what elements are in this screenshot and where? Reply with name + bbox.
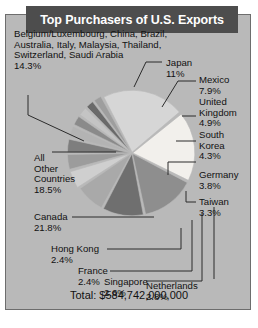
label-all-other: All Other Countries 18.5% [34,153,75,195]
label-south-korea: South Korea 4.3% [199,130,225,162]
label-other-group: Belgium/Luxembourg, China, Brazil, Austr… [14,29,167,71]
leader-line-hongkong [107,228,181,249]
leader-line-taiwan [186,191,196,202]
label-germany: Germany 3.8% [199,170,238,191]
leader-line-france [110,220,192,271]
chart-figure: Top Purchasers of U.S. Exports [5,14,251,310]
label-taiwan: Taiwan 3.3% [199,197,229,218]
pie-chart-area: Belgium/Luxembourg, China, Brazil, Austr… [6,15,252,311]
pie-wedges [67,90,194,216]
label-canada: Canada 21.8% [34,212,68,233]
label-united-kingdom: United Kingdom 4.9% [199,97,237,129]
label-mexico: Mexico 7.9% [199,75,229,96]
label-japan: Japan 11% [166,58,192,79]
total-value: Total: $584,742,000,000 [6,289,252,301]
label-hong-kong: Hong Kong 2.4% [51,244,99,265]
